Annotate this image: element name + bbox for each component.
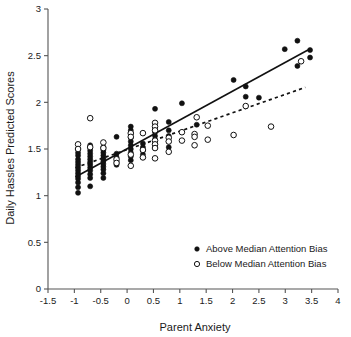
x-tick-label: 3.5 <box>305 295 318 306</box>
trend-line <box>75 50 308 177</box>
legend-label: Above Median Attention Bias <box>206 243 328 254</box>
y-tick-label: 3 <box>36 3 41 14</box>
x-tick-label: 0.5 <box>147 295 160 306</box>
x-tick-label: 2.5 <box>252 295 265 306</box>
plot-canvas: -1.5-1-0.500.511.522.533.54 00.511.522.5… <box>0 0 351 337</box>
data-point-above-median <box>76 190 81 195</box>
data-point-above-median <box>231 77 236 82</box>
data-point-below-median <box>101 145 107 151</box>
data-point-above-median <box>76 185 81 190</box>
y-axis-ticks: 00.511.522.53 <box>28 3 48 294</box>
y-tick-label: 0 <box>36 283 41 294</box>
data-point-above-median <box>114 151 119 156</box>
data-point-below-median <box>268 124 274 130</box>
scatter-plot-figure: -1.5-1-0.500.511.522.533.54 00.511.522.5… <box>0 0 351 337</box>
trend-lines <box>75 50 308 177</box>
chart-legend: Above Median Attention BiasBelow Median … <box>194 243 327 269</box>
y-tick-label: 0.5 <box>28 237 41 248</box>
data-point-below-median <box>152 145 158 151</box>
data-point-below-median <box>114 160 120 166</box>
data-points <box>75 38 312 195</box>
data-point-below-median <box>75 146 81 152</box>
data-point-below-median <box>192 142 198 148</box>
data-point-below-median <box>194 114 200 120</box>
x-tick-label: 0 <box>124 295 129 306</box>
data-point-above-median <box>114 134 119 139</box>
data-point-above-median <box>243 84 248 89</box>
data-point-below-median <box>152 156 158 162</box>
data-point-below-median <box>192 134 198 140</box>
x-axis-label: Parent Anxiety <box>160 321 231 333</box>
x-axis-ticks: -1.5-1-0.500.511.522.533.54 <box>40 289 341 306</box>
data-point-above-median <box>194 122 199 127</box>
data-point-below-median <box>205 137 211 143</box>
y-tick-label: 1.5 <box>28 143 41 154</box>
x-tick-label: 1 <box>177 295 182 306</box>
y-tick-label: 2.5 <box>28 50 41 61</box>
x-tick-label: -1.5 <box>40 295 56 306</box>
data-point-above-median <box>282 47 287 52</box>
data-point-below-median <box>179 129 185 135</box>
x-tick-label: 4 <box>335 295 340 306</box>
data-point-below-median <box>128 134 134 140</box>
y-tick-label: 1 <box>36 190 41 201</box>
data-point-above-median <box>101 175 106 180</box>
data-point-above-median <box>243 94 248 99</box>
legend-marker-filled-circle-icon <box>195 247 200 252</box>
data-point-below-median <box>140 147 146 153</box>
data-point-above-median <box>256 95 261 100</box>
data-point-below-median <box>298 58 304 64</box>
data-point-above-median <box>295 38 300 43</box>
y-axis-label: Daily Hassles Predicted Scores <box>4 71 16 225</box>
data-point-below-median <box>179 138 185 144</box>
x-tick-label: 1.5 <box>200 295 213 306</box>
data-point-below-median <box>231 132 237 138</box>
data-point-above-median <box>308 48 313 53</box>
y-tick-label: 2 <box>36 97 41 108</box>
data-point-below-median <box>140 130 146 136</box>
data-point-below-median <box>152 128 158 134</box>
data-point-below-median <box>140 155 146 161</box>
data-point-above-median <box>308 55 313 60</box>
data-point-below-median <box>87 115 93 121</box>
legend-marker-open-circle-icon <box>194 261 199 266</box>
data-point-above-median <box>153 106 158 111</box>
data-point-below-median <box>166 149 172 155</box>
legend-label: Below Median Attention Bias <box>206 258 327 269</box>
data-point-above-median <box>295 63 300 68</box>
data-point-above-median <box>166 128 171 133</box>
data-point-below-median <box>166 139 172 145</box>
x-tick-label: -1 <box>70 295 78 306</box>
data-point-below-median <box>128 163 134 169</box>
x-tick-label: 2 <box>230 295 235 306</box>
data-point-above-median <box>179 101 184 106</box>
data-point-below-median <box>128 152 134 158</box>
data-point-below-median <box>243 103 249 109</box>
x-tick-label: -0.5 <box>93 295 109 306</box>
data-point-below-median <box>87 144 93 150</box>
data-point-below-median <box>101 140 107 146</box>
data-point-below-median <box>205 123 211 129</box>
x-tick-label: 3 <box>283 295 288 306</box>
data-point-above-median <box>166 119 171 124</box>
data-point-above-median <box>88 184 93 189</box>
data-point-above-median <box>128 158 133 163</box>
